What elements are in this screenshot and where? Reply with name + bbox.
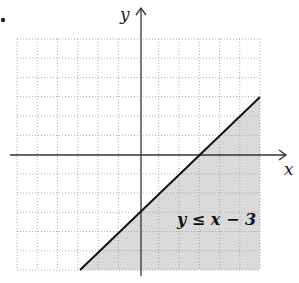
inequality-label: y ≤ x − 3: [176, 210, 256, 229]
inequality-graph: y x y ≤ x − 3: [0, 0, 299, 283]
x-axis-label: x: [284, 159, 294, 179]
bullet-icon: [1, 18, 5, 22]
y-axis-label: y: [119, 4, 130, 24]
